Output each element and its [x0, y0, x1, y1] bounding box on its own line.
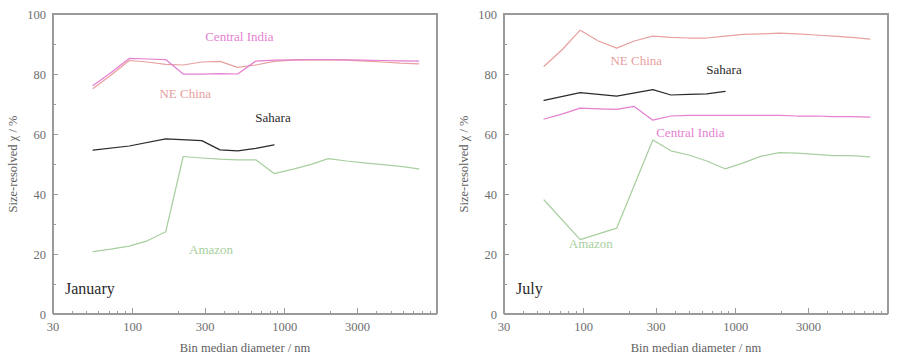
y-tick-label: 0: [40, 308, 46, 322]
x-tick-label: 100: [574, 320, 593, 334]
y-tick-label: 40: [485, 188, 498, 202]
panel-january: 0204060801003010030010003000Bin median d…: [0, 0, 451, 357]
x-tick-label: 3000: [345, 320, 370, 334]
series-label-sahara: Sahara: [255, 110, 291, 125]
y-tick-label: 60: [34, 128, 47, 142]
series-line-central-india: [93, 58, 419, 85]
series-line-amazon: [93, 157, 419, 252]
panel-july: 0204060801003010030010003000Bin median d…: [451, 0, 902, 357]
x-tick-label: 300: [647, 320, 666, 334]
y-axis-title: Size-resolved χ / %: [457, 116, 471, 213]
series-line-amazon: [544, 140, 870, 240]
chart-january: 0204060801003010030010003000Bin median d…: [0, 0, 451, 357]
figure-two-panel-chart: 0204060801003010030010003000Bin median d…: [0, 0, 902, 357]
x-tick-label: 1000: [723, 320, 748, 334]
x-tick-label: 1000: [272, 320, 297, 334]
y-tick-label: 20: [485, 248, 498, 262]
y-tick-label: 80: [34, 68, 47, 82]
panel-label: July: [516, 280, 543, 298]
series-line-sahara: [544, 90, 725, 101]
series-line-central-india: [544, 106, 870, 120]
y-tick-label: 40: [34, 188, 47, 202]
y-tick-label: 100: [478, 8, 497, 22]
y-axis-title: Size-resolved χ / %: [6, 116, 20, 213]
x-axis-title: Bin median diameter / nm: [180, 341, 311, 355]
y-tick-label: 20: [34, 248, 47, 262]
x-tick-label: 300: [196, 320, 215, 334]
x-tick-label: 30: [498, 320, 511, 334]
axis-frame: [504, 14, 888, 314]
y-tick-label: 0: [491, 308, 497, 322]
series-line-ne-china: [544, 30, 870, 66]
series-line-ne-china: [93, 60, 419, 89]
series-label-ne-china: NE China: [610, 53, 662, 68]
y-tick-label: 80: [485, 68, 498, 82]
panel-label: January: [65, 280, 115, 298]
series-line-sahara: [93, 139, 274, 151]
series-label-amazon: Amazon: [569, 236, 614, 251]
x-tick-label: 100: [123, 320, 142, 334]
chart-july: 0204060801003010030010003000Bin median d…: [451, 0, 902, 357]
x-tick-label: 3000: [796, 320, 821, 334]
y-tick-label: 60: [485, 128, 498, 142]
x-tick-label: 30: [47, 320, 60, 334]
series-label-ne-china: NE China: [159, 86, 211, 101]
y-tick-label: 100: [27, 8, 46, 22]
series-label-central-india: Central India: [656, 125, 724, 140]
series-label-central-india: Central India: [205, 29, 273, 44]
series-label-sahara: Sahara: [706, 62, 742, 77]
series-label-amazon: Amazon: [189, 242, 234, 257]
x-axis-title: Bin median diameter / nm: [631, 341, 762, 355]
